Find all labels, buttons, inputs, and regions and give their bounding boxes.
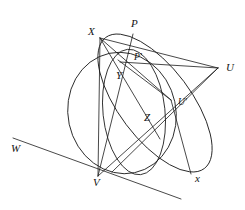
label-x: x [194, 172, 200, 184]
label-layer: X P P' U Y U' Z W V x [11, 17, 235, 188]
label-Z: Z [144, 111, 151, 123]
label-U-prime: U' [178, 97, 188, 107]
figure-canvas: X P P' U Y U' Z W V x [0, 0, 245, 210]
line-Uprime-Pprime [118, 60, 171, 100]
label-U: U [226, 61, 235, 73]
geometry-figure: X P P' U Y U' Z W V x [0, 0, 245, 210]
label-V: V [93, 176, 101, 188]
line-U-lower [112, 68, 218, 172]
line-X-V [98, 38, 100, 176]
label-P: P [130, 17, 138, 29]
label-W: W [11, 142, 21, 154]
line-U-Pprime [120, 62, 218, 68]
line-Uprime-x [171, 100, 191, 174]
label-P-prime: P' [133, 52, 143, 62]
line-set [13, 34, 218, 199]
label-X: X [87, 25, 96, 37]
line-w [13, 138, 181, 199]
